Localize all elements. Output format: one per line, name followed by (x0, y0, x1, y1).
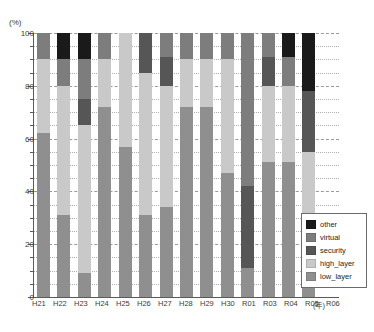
legend-swatch-icon (306, 259, 316, 268)
bar-segment-virtual (180, 33, 193, 59)
y-tick-label: 20 (8, 240, 34, 249)
bar-column (37, 33, 50, 297)
bar-segment-low_layer (98, 107, 111, 297)
bar-segment-virtual (282, 57, 295, 86)
x-tick-label: H27 (158, 299, 171, 315)
bar-segment-low_layer (37, 133, 50, 297)
y-tick-label: 60 (8, 134, 34, 143)
bar-column (241, 33, 254, 297)
x-tick-label: R03 (263, 299, 276, 315)
bar-segment-high_layer (98, 59, 111, 107)
bar-segment-virtual (200, 33, 213, 59)
bar-segment-security (160, 57, 173, 86)
y-tick-mark (30, 73, 33, 74)
x-tick-label: H23 (74, 299, 87, 315)
y-tick-mark (30, 284, 33, 285)
bar-segment-high_layer (200, 59, 213, 107)
bar-segment-high_layer (160, 86, 173, 207)
x-tick-label: H22 (53, 299, 66, 315)
legend-swatch-icon (306, 220, 316, 229)
bar-segment-high_layer (119, 33, 132, 147)
bar-segment-virtual (160, 33, 173, 57)
y-tick-mark (30, 152, 33, 153)
bar-segment-low_layer (119, 147, 132, 297)
y-tick-mark (30, 218, 33, 219)
legend-swatch-icon (306, 272, 316, 281)
y-tick-label: 80 (8, 81, 34, 90)
x-tick-label: H29 (200, 299, 213, 315)
bar-segment-security (302, 91, 315, 152)
legend-label: other (320, 220, 337, 229)
legend-swatch-icon (306, 233, 316, 242)
x-tick-label: R04 (284, 299, 297, 315)
x-tick-label: R01 (242, 299, 255, 315)
bar-segment-security (139, 33, 152, 73)
y-tick-mark (30, 231, 33, 232)
x-tick-label: H28 (179, 299, 192, 315)
y-tick-mark (30, 178, 33, 179)
legend-item-other[interactable]: other (306, 218, 363, 231)
bar-segment-other (57, 33, 70, 59)
legend-label: high_layer (320, 259, 355, 268)
y-tick-mark (30, 99, 33, 100)
x-axis-unit-label: (年) (313, 299, 325, 310)
bar-segment-low_layer (160, 207, 173, 297)
y-axis-unit-label: (%) (9, 18, 21, 27)
bar-segment-high_layer (139, 73, 152, 216)
bar-segment-high_layer (37, 59, 50, 133)
bar-segment-other (282, 33, 295, 57)
y-tick-mark (30, 59, 33, 60)
bar-segment-virtual (262, 33, 275, 57)
stacked-bar-chart: (%) 020406080100 H21H22H23H24H25H26H27H2… (0, 0, 374, 332)
bar-column (119, 33, 132, 297)
legend-item-high_layer[interactable]: high_layer (306, 257, 363, 270)
legend-item-security[interactable]: security (306, 244, 363, 257)
bar-segment-low_layer (241, 268, 254, 297)
bar-segment-low_layer (221, 173, 234, 297)
bar-series-container (34, 33, 339, 297)
x-tick-label: H24 (95, 299, 108, 315)
bar-segment-low_layer (78, 273, 91, 297)
bar-column (221, 33, 234, 297)
x-axis-labels: H21H22H23H24H25H26H27H28H29H30R01R03R04R… (33, 299, 338, 315)
y-tick-mark (30, 271, 33, 272)
bar-segment-low_layer (57, 215, 70, 297)
legend-label: security (320, 246, 346, 255)
plot-inner (34, 33, 339, 297)
bar-segment-low_layer (282, 162, 295, 297)
bar-column (57, 33, 70, 297)
bar-column (78, 33, 91, 297)
y-tick-mark (30, 165, 33, 166)
bar-segment-virtual (241, 33, 254, 186)
bar-segment-high_layer (282, 86, 295, 163)
y-tick-mark (30, 46, 33, 47)
bar-column (180, 33, 193, 297)
bar-segment-low_layer (262, 162, 275, 297)
x-tick-label: H25 (116, 299, 129, 315)
x-tick-label: H26 (137, 299, 150, 315)
y-tick-label: 100 (8, 29, 34, 38)
chart-legend: othervirtualsecurityhigh_layerlow_layer (301, 213, 367, 288)
x-tick-label: H30 (221, 299, 234, 315)
bar-segment-other (78, 33, 91, 59)
legend-label: virtual (320, 233, 340, 242)
bar-segment-high_layer (78, 125, 91, 273)
y-tick-mark (30, 125, 33, 126)
bar-segment-virtual (98, 33, 111, 59)
y-tick-mark (30, 257, 33, 258)
bar-segment-low_layer (200, 107, 213, 297)
y-tick-label: 40 (8, 187, 34, 196)
bar-segment-virtual (57, 59, 70, 85)
legend-label: low_layer (320, 272, 352, 281)
bar-segment-low_layer (139, 215, 152, 297)
bar-segment-virtual (37, 33, 50, 59)
bar-segment-security (241, 186, 254, 268)
bar-column (139, 33, 152, 297)
bar-segment-high_layer (221, 59, 234, 173)
bar-segment-low_layer (180, 107, 193, 297)
bar-column (200, 33, 213, 297)
legend-item-virtual[interactable]: virtual (306, 231, 363, 244)
bar-segment-other (302, 33, 315, 91)
legend-item-low_layer[interactable]: low_layer (306, 270, 363, 283)
bar-column (282, 33, 295, 297)
